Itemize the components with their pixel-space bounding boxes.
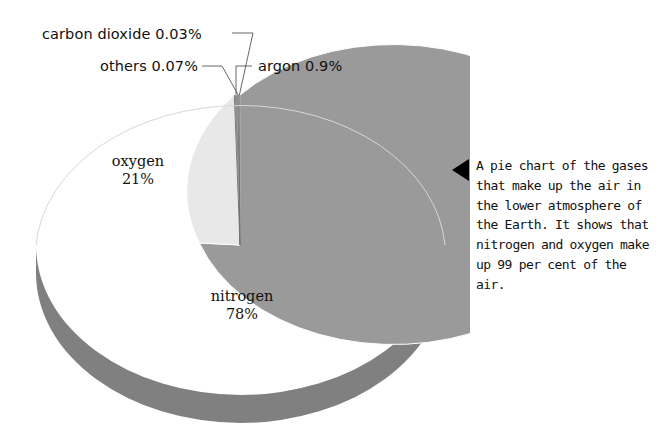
leader-line-others bbox=[202, 66, 238, 95]
pie-chart-graphic: carbon dioxide 0.03% others 0.07% argon … bbox=[0, 0, 470, 444]
pie-side-wall-left bbox=[36, 245, 241, 423]
slice-label-nitrogen: nitrogen 78% bbox=[196, 287, 288, 323]
slice-label-oxygen: oxygen 21% bbox=[92, 152, 184, 188]
callout-label-argon: argon 0.9% bbox=[258, 58, 342, 74]
slice-label-oxygen-percent: 21% bbox=[92, 170, 184, 188]
pie-slice-oxygen bbox=[187, 95, 240, 245]
caption-text: A pie chart of the gases that make up th… bbox=[476, 156, 660, 294]
slice-label-nitrogen-name: nitrogen bbox=[196, 287, 288, 305]
slice-label-oxygen-name: oxygen bbox=[92, 152, 184, 170]
callout-label-carbon-dioxide: carbon dioxide 0.03% bbox=[42, 26, 202, 42]
pie-chart-svg bbox=[0, 0, 470, 444]
leader-line-carbon-dioxide bbox=[232, 33, 253, 95]
slice-label-nitrogen-percent: 78% bbox=[196, 305, 288, 323]
callout-label-others: others 0.07% bbox=[100, 58, 198, 74]
left-triangle-bullet-icon bbox=[452, 159, 469, 181]
caption-block: A pie chart of the gases that make up th… bbox=[452, 156, 660, 294]
pie-chart-figure: carbon dioxide 0.03% others 0.07% argon … bbox=[0, 0, 665, 444]
